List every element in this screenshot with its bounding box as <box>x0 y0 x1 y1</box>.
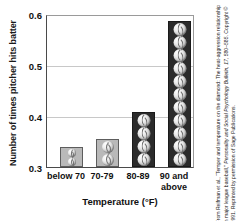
x-tick-label-3: 90 and above <box>152 171 196 192</box>
y-tick-label-0: 0.3 <box>22 163 42 174</box>
credit-line-2-italic: Personality and <box>222 129 228 164</box>
bar-80-89 <box>132 112 155 167</box>
source-credit: From Reifman et al., “Temper and tempera… <box>198 0 252 221</box>
y-tick-label-2: 0.5 <box>22 61 42 72</box>
plot-area <box>46 15 194 168</box>
baseball-icon <box>137 114 150 127</box>
bar-70-79 <box>96 139 119 167</box>
x-axis-title: Temperature (°F) <box>46 196 194 207</box>
baseball-icon <box>173 23 186 36</box>
bar-90-and-above <box>168 21 191 167</box>
credit-line-4: by permission of Sage Publications. <box>230 105 236 186</box>
bar-below-70 <box>60 147 83 167</box>
credit-line-3-italic: Social Psychology Bulletin, 17, <box>222 58 228 127</box>
y-tick-label-3: 0.6 <box>22 10 42 21</box>
y-tick-label-1: 0.4 <box>22 112 42 123</box>
y-axis-title: Number of times pitcher hits batter <box>8 18 18 168</box>
credit-line-1: From Reifman et al., “Temper and tempera… <box>215 70 221 221</box>
baseball-icon <box>102 141 114 153</box>
baseball-icon <box>68 149 76 157</box>
bar-chart-figure: Number of times pitcher hits batter 0.3 … <box>0 0 252 221</box>
